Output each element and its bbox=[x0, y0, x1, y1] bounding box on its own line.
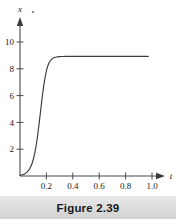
y-tick-label-2: 2 bbox=[10, 144, 15, 154]
x-axis-arrow bbox=[156, 173, 165, 179]
y-axis-arrow bbox=[17, 17, 23, 26]
x-tick-label-0-4: 0.4 bbox=[67, 181, 79, 191]
x-tick-label-0-2: 0.2 bbox=[41, 181, 52, 191]
stray-dot-mark bbox=[32, 11, 34, 13]
x-tick-label-0-8: 0.8 bbox=[120, 181, 132, 191]
x-axis-name: t bbox=[170, 171, 173, 181]
x-tick-label-0-6: 0.6 bbox=[94, 181, 106, 191]
figure-caption: Figure 2.39 bbox=[57, 202, 120, 214]
x-tick-label-1-0: 1.0 bbox=[146, 181, 158, 191]
caption-bar: Figure 2.39 bbox=[0, 196, 176, 219]
logistic-curve bbox=[20, 56, 148, 175]
plot-svg: 10 8 6 4 2 0.2 0.4 0.6 0.8 1.0 x t bbox=[0, 0, 176, 196]
y-axis-name: x bbox=[17, 4, 22, 14]
y-tick-label-8: 8 bbox=[10, 64, 15, 74]
plot-area: 10 8 6 4 2 0.2 0.4 0.6 0.8 1.0 x t bbox=[0, 0, 176, 196]
figure-container: 10 8 6 4 2 0.2 0.4 0.6 0.8 1.0 x t Figur… bbox=[0, 0, 176, 219]
y-tick-label-4: 4 bbox=[10, 118, 15, 128]
y-tick-label-10: 10 bbox=[5, 37, 15, 47]
y-tick-label-6: 6 bbox=[10, 91, 15, 101]
